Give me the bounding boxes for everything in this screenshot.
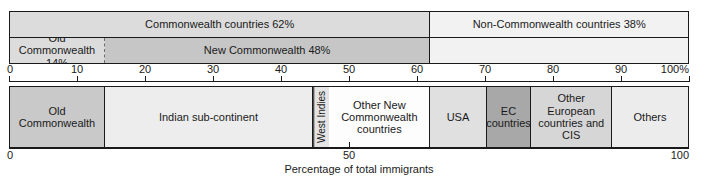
axis-tick-label: 0 [7, 63, 13, 75]
axis-tick-label: 10 [71, 63, 83, 75]
level-2-bar: Old Commonwealth 14% New Commonwealth 48… [9, 38, 689, 64]
axis-tick [145, 76, 146, 82]
x-axis-title: Percentage of total immigrants [0, 163, 718, 175]
segment-label: Other European countries and CIS [533, 92, 609, 141]
segment-commonwealth-countries: Commonwealth countries 62% [10, 12, 430, 37]
segment-others: Others [612, 87, 688, 147]
lower-axis: 0 50 100 [9, 148, 689, 162]
axis-tick-label: 80 [547, 63, 559, 75]
segment-indian-sub-continent: Indian sub-continent [105, 87, 313, 147]
segment-usa: USA [430, 87, 486, 147]
axis-tick-label: 100 [671, 149, 689, 161]
segment-non-commonwealth-blank [430, 38, 688, 63]
axis-tick-label: 50 [343, 63, 355, 75]
segment-label: Old Commonwealth 14% [10, 38, 104, 63]
axis-tick-label: 0 [7, 149, 13, 161]
segment-ec-countries: EC countries [487, 87, 532, 147]
axis-tick [689, 76, 690, 82]
axis-tick-label: 40 [275, 63, 287, 75]
segment-other-new-commonwealth-countries: Other New Commonwealth countries [329, 87, 430, 147]
axis-tick-label: 70 [479, 63, 491, 75]
axis-tick-label: 100% [661, 63, 689, 75]
axis-tick [621, 76, 622, 82]
axis-tick [349, 142, 350, 148]
level-3-bar: Old Commonwealth Indian sub-continent We… [9, 86, 689, 148]
axis-tick [77, 76, 78, 82]
axis-tick [485, 76, 486, 82]
segment-label: Old Commonwealth [12, 105, 102, 130]
segment-new-commonwealth-pct: New Commonwealth 48% [105, 38, 430, 63]
segment-label: Non-Commonwealth countries 38% [473, 18, 646, 30]
axis-tick-label: 60 [411, 63, 423, 75]
segment-label: Others [634, 111, 667, 123]
axis-tick [281, 76, 282, 82]
axis-tick [213, 76, 214, 82]
segment-label: New Commonwealth 48% [204, 44, 331, 56]
segment-label: Indian sub-continent [159, 111, 258, 123]
segment-west-indies: West Indies [313, 87, 329, 147]
upper-axis: 0 10 20 30 40 50 60 70 80 90 100% [9, 64, 689, 84]
axis-tick-label: 90 [615, 63, 627, 75]
segment-label: EC countries [487, 105, 531, 130]
axis-tick [9, 76, 10, 82]
segment-label: West Indies [316, 91, 327, 143]
axis-tick [349, 76, 350, 82]
axis-tick-label: 30 [207, 63, 219, 75]
segment-label: USA [447, 111, 470, 123]
segment-label: Other New Commonwealth countries [341, 99, 417, 136]
segment-old-commonwealth: Old Commonwealth [10, 87, 105, 147]
axis-tick [417, 76, 418, 82]
level-1-bar: Commonwealth countries 62% Non-Commonwea… [9, 11, 689, 38]
segment-other-european-countries-and-cis: Other European countries and CIS [531, 87, 612, 147]
axis-tick-label: 50 [343, 149, 355, 161]
axis-tick [553, 76, 554, 82]
axis-tick-label: 20 [139, 63, 151, 75]
segment-label: Commonwealth countries 62% [145, 18, 294, 30]
segment-non-commonwealth-countries: Non-Commonwealth countries 38% [430, 12, 688, 37]
immigration-source-chart: Commonwealth countries 62% Non-Commonwea… [0, 0, 718, 179]
segment-old-commonwealth-pct: Old Commonwealth 14% [10, 38, 105, 63]
